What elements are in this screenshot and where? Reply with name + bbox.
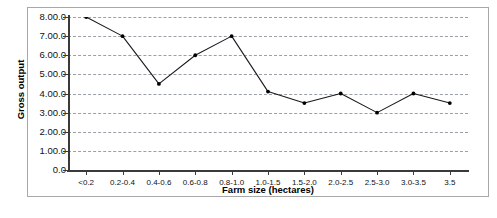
data-point-marker [193,53,197,57]
x-tick-mark [413,170,414,175]
y-axis-title: Gross output [15,30,26,150]
y-tick-labels-group: 0.01.00.02.00.03.00.04.00.05.00.06.00.07… [0,0,66,218]
x-tick-mark [341,170,342,175]
data-point-marker [302,101,306,105]
y-tick-label: 4.00.0 [4,88,66,99]
x-tick-mark [159,170,160,175]
x-tick-mark [86,170,87,175]
data-point-marker [157,82,161,86]
data-point-marker [230,34,234,38]
data-point-marker [121,34,125,38]
y-tick-label: 3.00.0 [4,107,66,118]
figure-container: 0.01.00.02.00.03.00.04.00.05.00.06.00.07… [0,0,497,218]
y-tick-label: 5.00.0 [4,68,66,79]
series-markers-group [84,17,451,115]
data-point-marker [339,92,343,96]
data-point-marker [448,101,452,105]
y-tick-label: 0.0 [4,164,66,175]
data-point-marker [412,92,416,96]
x-tick-mark [377,170,378,175]
x-tick-mark [123,170,124,175]
x-tick-mark [304,170,305,175]
y-tick-label: 7.00.0 [4,30,66,41]
x-tick-mark [195,170,196,175]
x-axis-title: Farm size (hectares) [68,184,468,195]
data-point-marker [266,90,270,94]
y-tick-label: 6.00.0 [4,49,66,60]
data-point-marker [84,17,88,19]
data-series-line [68,17,468,170]
data-point-marker [375,111,379,115]
x-tick-mark [268,170,269,175]
x-tick-mark [450,170,451,175]
x-tick-mark [232,170,233,175]
y-tick-label: 1.00.0 [4,145,66,156]
y-tick-label: 8.00.0 [4,11,66,22]
y-tick-label: 2.00.0 [4,126,66,137]
series-polyline [86,17,450,113]
